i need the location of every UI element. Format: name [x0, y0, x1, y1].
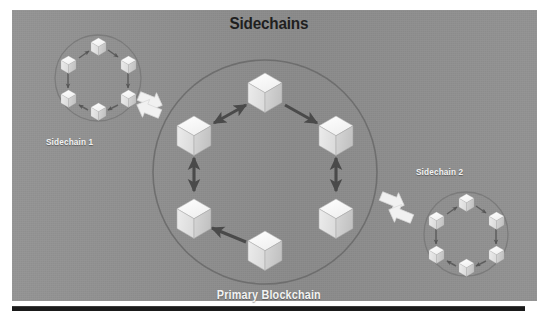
- sidechain-2-nodes: [429, 194, 504, 276]
- connector-top-upperright: [285, 105, 317, 123]
- peg-arrow-right: [377, 187, 415, 228]
- primary-chain-connectors: [194, 105, 336, 242]
- primary-chain-nodes: [177, 73, 353, 270]
- figure-title-text: Sidechains: [229, 14, 308, 34]
- block-cube-sidechain2-5: [489, 246, 504, 263]
- sidechain-2-group: [424, 192, 508, 276]
- figure-title: Sidechains: [0, 14, 537, 34]
- block-cube-sidechain2-2: [429, 212, 444, 229]
- sidechain-1-group: [55, 35, 141, 121]
- block-cube-sidechain1-4: [61, 90, 76, 107]
- block-cube-sidechain1-2: [61, 56, 76, 73]
- sidechain-diagram: [0, 0, 537, 326]
- block-cube-sidechain1-5: [121, 90, 136, 107]
- block-cube-primary-upper-left: [177, 116, 211, 155]
- block-cube-primary-top: [248, 73, 282, 112]
- sidechain-1-connectors: [68, 50, 128, 110]
- block-cube-sidechain2-1: [459, 194, 474, 211]
- block-cube-sidechain1-1: [91, 38, 106, 55]
- block-cube-primary-bottom: [248, 231, 282, 270]
- connector-top-upperleft: [214, 105, 246, 123]
- block-cube-primary-lower-right: [319, 199, 353, 238]
- sidechain-1-nodes: [61, 38, 136, 120]
- sidechain-2-connectors: [436, 206, 496, 266]
- block-cube-sidechain2-6: [459, 259, 474, 276]
- block-cube-sidechain2-4: [429, 246, 444, 263]
- block-cube-sidechain1-6: [91, 103, 106, 120]
- figure-canvas: Sidechains Sidechain 1 Sidechain 2 Prima…: [0, 0, 537, 326]
- block-cube-sidechain2-3: [489, 212, 504, 229]
- sidechain-2-label: Sidechain 2: [416, 166, 463, 177]
- block-cube-primary-lower-left: [177, 199, 211, 238]
- block-cube-sidechain1-3: [121, 56, 136, 73]
- primary-blockchain-label-text: Primary Blockchain: [216, 288, 320, 302]
- block-cube-primary-upper-right: [319, 116, 353, 155]
- primary-blockchain-label: Primary Blockchain: [0, 288, 537, 302]
- connector-bottom-lowerleft: [212, 228, 246, 242]
- sidechain-1-label: Sidechain 1: [46, 136, 93, 147]
- bottom-divider: [12, 306, 525, 311]
